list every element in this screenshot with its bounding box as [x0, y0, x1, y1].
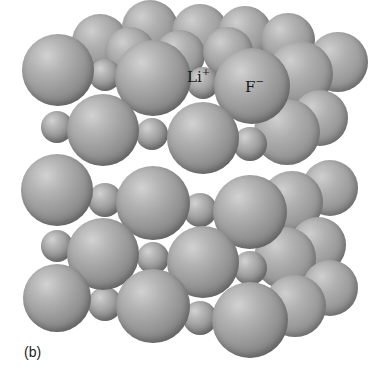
- f-ion-label: F−: [245, 78, 264, 95]
- f-ion-sphere: [21, 154, 93, 226]
- f-ion-sphere: [67, 94, 139, 166]
- li-ion-sphere: [136, 118, 168, 150]
- f-ion-sphere: [212, 282, 288, 358]
- li-symbol: Li: [187, 68, 202, 86]
- f-ion-sphere: [22, 34, 94, 106]
- f-ion-sphere: [167, 102, 239, 174]
- li-ion-label: Li+: [187, 68, 210, 85]
- f-ion-sphere: [116, 269, 190, 343]
- li-charge: +: [202, 66, 210, 77]
- lattice-diagram: [0, 0, 385, 390]
- figure-caption: (b): [24, 344, 41, 360]
- f-charge: −: [255, 76, 263, 87]
- f-ion-sphere: [23, 264, 91, 332]
- f-symbol: F: [245, 78, 255, 96]
